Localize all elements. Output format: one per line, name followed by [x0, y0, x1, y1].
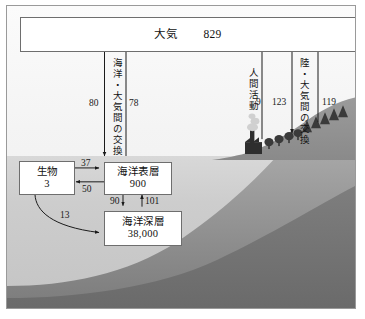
biota-box: 生物 3 — [19, 161, 75, 195]
biota-label: 生物 — [20, 166, 74, 178]
flow-label-biota-to-surface: 37 — [81, 158, 91, 168]
flow-label-ocean-to-atmos: 78 — [129, 98, 139, 108]
ocean-deep-box: 海洋深層 38,000 — [104, 211, 182, 246]
vlabel-land-atmosphere-exchange: 陸・大気間の交換 — [297, 58, 311, 146]
flow-label-land-to-atmos: 119 — [322, 97, 336, 107]
flow-label-human-emission: 9 — [256, 97, 261, 107]
ocean-deep-value: 38,000 — [105, 228, 181, 240]
atmosphere-box: 大気 829 — [20, 17, 356, 52]
carbon-cycle-diagram: 海洋・大気間の交換 人間活動 陸・大気間の交換 80 78 37 50 90 1… — [0, 0, 365, 319]
ocean-deep-label: 海洋深層 — [105, 216, 181, 228]
diagram-frame: 海洋・大気間の交換 人間活動 陸・大気間の交換 80 78 37 50 90 1… — [6, 5, 356, 309]
ocean-surface-label: 海洋表層 — [105, 166, 171, 178]
vlabel-ocean-atmosphere-exchange: 海洋・大気間の交換 — [110, 58, 124, 157]
atmosphere-label: 大気 — [154, 28, 177, 41]
flow-label-atmos-to-ocean: 80 — [89, 98, 99, 108]
flow-label-surface-to-deep: 90 — [110, 196, 120, 206]
flow-label-biota-to-deep: 13 — [60, 210, 70, 220]
atmosphere-value: 829 — [203, 28, 221, 41]
ocean-surface-value: 900 — [105, 178, 171, 190]
biota-value: 3 — [20, 178, 74, 190]
flow-label-surface-to-biota: 50 — [82, 184, 92, 194]
ocean-surface-box: 海洋表層 900 — [104, 162, 172, 195]
flow-label-deep-to-surface: 101 — [145, 196, 159, 206]
flow-label-atmos-to-land: 123 — [272, 97, 286, 107]
